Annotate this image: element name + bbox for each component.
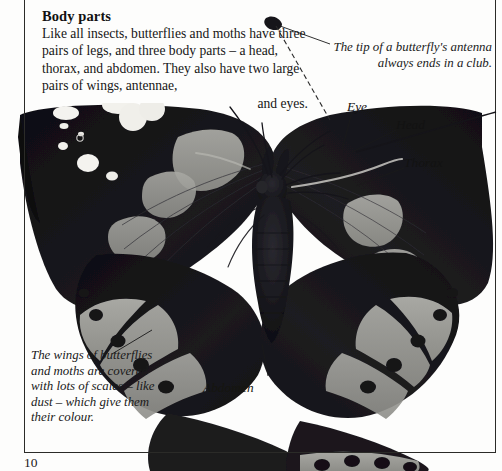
label-head: Head [396, 117, 425, 133]
page-rule-bottom [24, 452, 496, 453]
book-page: Body parts Like all insects, butterflies… [0, 0, 502, 471]
page-title: Body parts [42, 8, 111, 25]
page-rule-right [495, 0, 496, 452]
callout-wing-scales: The wings of butterflies and moths are c… [31, 348, 171, 426]
label-eye: Eye [347, 99, 367, 115]
page-rule-left [24, 0, 25, 452]
body-paragraph-last-line: and eyes. [42, 95, 308, 112]
label-abdomen: Abdomen [203, 380, 254, 396]
callout-antenna-tip: The tip of a butterfly's antenna always … [322, 40, 492, 71]
body-paragraph: Like all insects, butterflies and moths … [42, 25, 308, 112]
label-thorax: Thorax [404, 155, 443, 171]
body-paragraph-text: Like all insects, butterflies and moths … [42, 26, 306, 93]
page-number: 10 [24, 455, 38, 471]
